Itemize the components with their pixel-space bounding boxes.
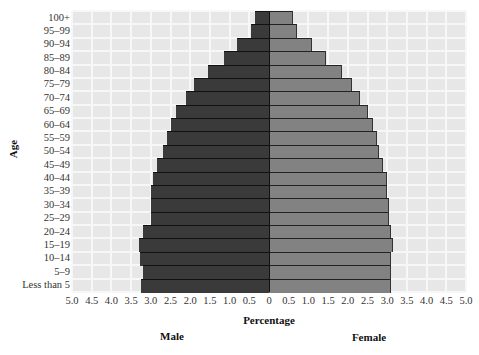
- female-bar: [269, 145, 379, 159]
- male-bar: [167, 131, 269, 145]
- y-tick-label: 95–99: [44, 25, 70, 36]
- x-tick-label: 2.0: [184, 295, 197, 306]
- male-bar: [143, 265, 269, 279]
- male-bar: [139, 238, 269, 252]
- female-bar: [269, 172, 387, 186]
- x-tick-label: 4.0: [420, 295, 433, 306]
- zero-axis-line: [269, 11, 270, 292]
- male-legend-label: Male: [160, 330, 184, 342]
- vertical-gridline: [465, 11, 467, 292]
- x-tick-label: 0.5: [282, 295, 295, 306]
- y-tick-label: 20–24: [44, 226, 70, 237]
- y-tick-label: 40–44: [44, 172, 70, 183]
- female-bar: [269, 238, 393, 252]
- y-tick-label: 15–19: [44, 239, 70, 250]
- y-tick-label: 60–64: [44, 119, 70, 130]
- male-bar: [224, 51, 269, 65]
- female-bar: [269, 51, 326, 65]
- x-tick-label: 2.5: [361, 295, 374, 306]
- x-tick-label: 4.5: [440, 295, 453, 306]
- x-axis-title: Percentage: [243, 314, 295, 326]
- male-bar: [255, 11, 269, 25]
- y-tick-label: 30–34: [44, 199, 70, 210]
- male-bar: [208, 65, 269, 79]
- male-bar: [140, 252, 269, 266]
- female-bar: [269, 198, 389, 212]
- male-bar: [251, 24, 269, 38]
- male-bar: [186, 91, 269, 105]
- female-legend-label: Female: [352, 331, 386, 343]
- vertical-gridline: [110, 11, 112, 292]
- y-tick-label: 90–94: [44, 38, 70, 49]
- y-tick-label: 45–49: [44, 159, 70, 170]
- y-tick-label: 100+: [48, 12, 70, 23]
- x-tick-label: 2.0: [341, 295, 354, 306]
- y-tick-label: 80–84: [44, 65, 70, 76]
- x-tick-label: 1.5: [322, 295, 335, 306]
- x-tick-label: 5.0: [459, 295, 472, 306]
- male-bar: [153, 172, 269, 186]
- y-tick-label: Less than 5: [22, 279, 70, 290]
- x-tick-label: 1.0: [302, 295, 315, 306]
- x-tick-label: 1.5: [203, 295, 216, 306]
- x-tick-label: 1.0: [223, 295, 236, 306]
- vertical-gridline: [426, 11, 428, 292]
- y-tick-label: 35–39: [44, 185, 70, 196]
- female-bar: [269, 252, 391, 266]
- female-bar: [269, 91, 360, 105]
- male-bar: [163, 145, 269, 159]
- y-tick-label: 75–79: [44, 78, 70, 89]
- female-bar: [269, 225, 391, 239]
- y-tick-label: 55–59: [44, 132, 70, 143]
- x-tick-label: 3.5: [125, 295, 138, 306]
- population-pyramid-chart: 100+95–9990–9485–8980–8475–7970–7465–696…: [0, 0, 479, 355]
- male-bar: [194, 78, 269, 92]
- vertical-gridline: [445, 11, 447, 292]
- vertical-gridline: [406, 11, 408, 292]
- y-tick-label: 85–89: [44, 52, 70, 63]
- male-bar: [143, 225, 269, 239]
- y-tick-label: 25–29: [44, 212, 70, 223]
- female-bar: [269, 212, 389, 226]
- y-tick-label: 70–74: [44, 92, 70, 103]
- y-tick-label: 50–54: [44, 145, 70, 156]
- x-tick-label: 3.5: [400, 295, 413, 306]
- male-bar: [237, 38, 269, 52]
- female-bar: [269, 24, 297, 38]
- x-tick-label: 4.5: [85, 295, 98, 306]
- y-tick-label: 65–69: [44, 105, 70, 116]
- female-bar: [269, 65, 342, 79]
- vertical-gridline: [71, 11, 73, 292]
- female-bar: [269, 131, 377, 145]
- x-tick-label: 0.5: [243, 295, 256, 306]
- female-bar: [269, 38, 312, 52]
- vertical-gridline: [130, 11, 132, 292]
- male-bar: [151, 185, 269, 199]
- male-bar: [157, 158, 269, 172]
- x-tick-label: 2.5: [164, 295, 177, 306]
- female-bar: [269, 279, 391, 293]
- male-bar: [151, 212, 269, 226]
- male-bar: [141, 279, 269, 293]
- male-bar: [176, 105, 269, 119]
- female-bar: [269, 105, 368, 119]
- female-bar: [269, 265, 391, 279]
- vertical-gridline: [91, 11, 93, 292]
- x-tick-label: 5.0: [65, 295, 78, 306]
- male-bar: [151, 198, 269, 212]
- female-bar: [269, 78, 352, 92]
- y-tick-label: 5–9: [54, 266, 70, 277]
- female-bar: [269, 118, 373, 132]
- x-tick-label: 3.0: [144, 295, 157, 306]
- y-axis-title: Age: [7, 140, 19, 158]
- male-bar: [171, 118, 270, 132]
- female-bar: [269, 158, 383, 172]
- y-tick-label: 10–14: [44, 252, 70, 263]
- x-tick-label: 4.0: [105, 295, 118, 306]
- female-bar: [269, 185, 387, 199]
- x-tick-label: 0: [266, 295, 271, 306]
- female-bar: [269, 11, 293, 25]
- x-tick-label: 3.0: [381, 295, 394, 306]
